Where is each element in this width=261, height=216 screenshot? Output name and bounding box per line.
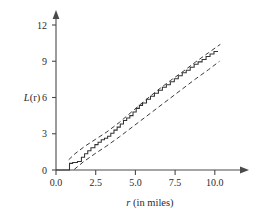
- x-tick-label-0: 0.0: [50, 177, 63, 188]
- y-tick-label-3: 3: [42, 128, 47, 139]
- series-l-function: [56, 52, 218, 170]
- series-lower-envelope: [74, 61, 219, 169]
- y-axis-arrow: [53, 10, 60, 19]
- series-group: [56, 44, 220, 170]
- x-tick-label-2.5: 2.5: [89, 177, 102, 188]
- x-tick-label-7.5: 7.5: [169, 177, 182, 188]
- plot-area: 0 3 6 9 12 0.0 2.5 5.0 7.5 10.0 L(r) r (…: [0, 0, 261, 216]
- x-tick-marks: [56, 170, 215, 175]
- y-tick-label-6: 6: [42, 92, 47, 103]
- chart-figure: 0 3 6 9 12 0.0 2.5 5.0 7.5 10.0 L(r) r (…: [0, 0, 261, 216]
- x-tick-label-10: 10.0: [206, 177, 224, 188]
- y-tick-label-9: 9: [42, 56, 47, 67]
- y-axis-title: L(r): [23, 92, 41, 104]
- x-axis-title-rest: (in miles): [130, 197, 174, 209]
- y-axis-title-rest: (r): [30, 92, 41, 104]
- x-axis-title: r (in miles): [126, 197, 174, 209]
- y-tick-marks: [52, 25, 56, 170]
- x-tick-labels: 0.0 2.5 5.0 7.5 10.0: [50, 177, 224, 188]
- x-tick-label-5: 5.0: [129, 177, 142, 188]
- y-tick-label-12: 12: [37, 20, 47, 31]
- x-axis-arrow: [240, 167, 249, 174]
- y-tick-label-0: 0: [42, 165, 47, 176]
